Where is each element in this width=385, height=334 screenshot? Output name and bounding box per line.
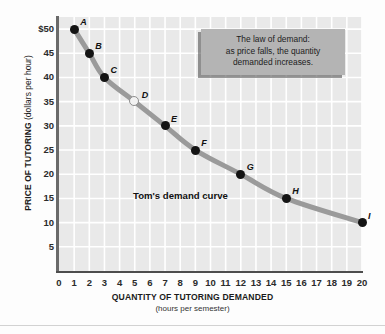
data-point-label-a: A xyxy=(80,17,87,27)
data-point-label-h: H xyxy=(292,186,299,196)
law-of-demand-callout: The law of demand: as price falls, the q… xyxy=(201,29,345,75)
callout-line-3: demanded increases. xyxy=(205,57,341,69)
callout-line-1: The law of demand: xyxy=(205,34,341,46)
page-divider xyxy=(0,325,385,326)
data-point-b xyxy=(85,49,94,58)
data-point-g xyxy=(236,170,245,179)
data-point-label-g: G xyxy=(247,162,254,172)
data-point-label-f: F xyxy=(201,138,207,148)
data-point-label-e: E xyxy=(171,114,177,124)
data-point-i xyxy=(358,218,367,227)
data-point-c xyxy=(100,73,109,82)
demand-curve-figure: $5045403530252015105 0123456789101112131… xyxy=(0,0,385,334)
data-point-label-i: I xyxy=(368,211,371,221)
data-point-f xyxy=(191,146,200,155)
data-point-label-c: C xyxy=(110,65,117,75)
data-point-d xyxy=(129,96,139,106)
data-point-a xyxy=(70,25,79,34)
data-point-label-b: B xyxy=(95,41,102,51)
data-point-label-d: D xyxy=(142,90,149,100)
demand-curve-label: Tom's demand curve xyxy=(133,190,228,201)
data-point-h xyxy=(282,194,291,203)
callout-line-2: as price falls, the quantity xyxy=(205,46,341,58)
data-point-e xyxy=(161,121,170,130)
